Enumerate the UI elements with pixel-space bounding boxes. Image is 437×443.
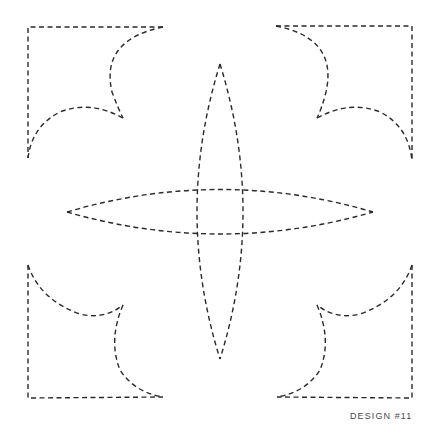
corner-motif-bottom-right bbox=[277, 265, 412, 398]
horizontal-lens bbox=[67, 190, 373, 235]
corner-motif-top-left bbox=[28, 27, 163, 158]
corner-motif-top-right bbox=[276, 26, 412, 160]
corner-motif-bottom-left bbox=[28, 265, 163, 398]
design-label: DESIGN #11 bbox=[350, 411, 412, 421]
vertical-lens bbox=[197, 64, 243, 359]
quilt-design-canvas bbox=[0, 0, 437, 443]
